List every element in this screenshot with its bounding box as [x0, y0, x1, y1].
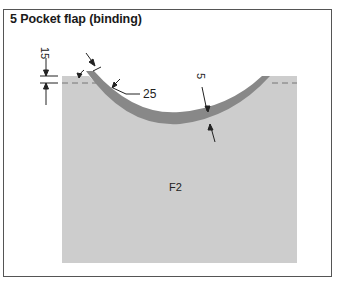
dimension-15 — [40, 58, 58, 105]
piece-label-f2: F2 — [169, 181, 182, 193]
pocket-flap-diagram: 15 25 5 F2 — [0, 0, 338, 281]
dimension-15-label: 15 — [39, 47, 51, 59]
pocket-flap-piece — [62, 76, 297, 263]
dimension-25-label: 25 — [143, 87, 157, 101]
dimension-5-label: 5 — [195, 73, 207, 79]
